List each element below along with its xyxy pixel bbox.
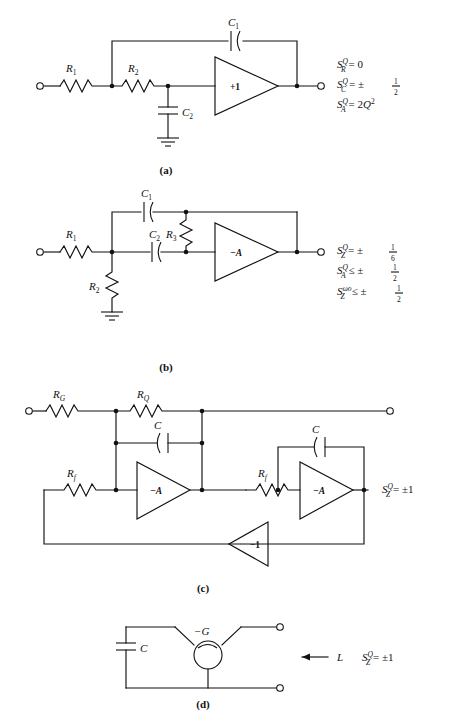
panel-b-caption: (b) xyxy=(159,361,173,374)
panel-d-label-C: C xyxy=(140,642,148,654)
panel-d-sensitivities: SQZ= ±1 xyxy=(362,650,394,667)
panel-c-label-C-left: C xyxy=(154,419,162,431)
panel-c-sensitivity-1: SQZ= ±1 xyxy=(382,482,414,499)
panel-c-caption: (c) xyxy=(197,582,210,595)
panel-a-output-terminal xyxy=(318,83,325,90)
svg-text:1: 1 xyxy=(393,263,397,272)
panel-a-sensitivities: SQR= 0 SQC= ± 1 2 SQA= 2Q2 xyxy=(337,57,400,114)
panel-c-amplifier-1 xyxy=(137,462,190,519)
panel-a-amplifier-label: +1 xyxy=(230,82,240,92)
panel-b-input-terminal xyxy=(37,249,44,256)
panel-b-fraction-half-2: 1 2 xyxy=(395,284,403,304)
panel-a-label-C2: C2 xyxy=(182,106,193,121)
panel-c: RG RQ C C Rf Rf −A −A −1 SQZ= ±1 (c) xyxy=(26,388,414,595)
panel-c-amplifier-2 xyxy=(300,462,353,519)
svg-text:2: 2 xyxy=(394,88,398,97)
panel-d-inductance-arrow xyxy=(302,654,328,661)
panel-b-amplifier-label: −A xyxy=(230,248,242,258)
panel-c-output-terminal xyxy=(387,408,394,415)
panel-d-label-negG: −G xyxy=(194,625,209,637)
panel-a-input-terminal xyxy=(37,83,44,90)
panel-b-label-C2: C2 xyxy=(149,228,160,243)
panel-d: C −G L SQZ= ±1 (d) xyxy=(116,624,394,711)
panel-b-amplifier xyxy=(215,223,278,281)
panel-a-label-R1: R1 xyxy=(65,62,77,77)
panel-c-label-C-right: C xyxy=(312,423,320,435)
svg-text:2: 2 xyxy=(393,274,397,283)
panel-b-sensitivity-1: SQZ= ± xyxy=(337,243,363,260)
panel-a-sensitivity-1: SQR= 0 xyxy=(337,57,363,74)
panel-a-sensitivity-2: SQC= ± xyxy=(337,77,364,94)
panel-b-label-R2: R2 xyxy=(88,280,100,295)
svg-text:1: 1 xyxy=(391,243,395,252)
panel-c-input-terminal xyxy=(26,408,33,415)
panel-b-sensitivity-3: SωoZ≤ ± xyxy=(337,284,367,301)
panel-c-label-Rf-1: Rf xyxy=(66,467,77,482)
panel-a: R1 R2 C1 C2 +1 SQR= 0 SQC= ± 1 2 SQA= 2Q… xyxy=(37,16,400,177)
panel-b-label-R3: R3 xyxy=(165,228,177,243)
panel-c-label-RQ: RQ xyxy=(136,388,150,403)
svg-text:1: 1 xyxy=(394,77,398,86)
panel-c-sensitivities: SQZ= ±1 xyxy=(382,482,414,499)
svg-text:1: 1 xyxy=(397,284,401,293)
panel-b-fraction-half-1: 1 2 xyxy=(391,263,399,283)
circuit-figure-sheet: R1 R2 C1 C2 +1 SQR= 0 SQC= ± 1 2 SQA= 2Q… xyxy=(0,0,449,721)
panel-d-terminal-top xyxy=(277,624,284,631)
panel-a-label-R2: R2 xyxy=(127,62,139,77)
panel-a-caption: (a) xyxy=(160,164,173,177)
panel-c-amplifier-2-label: −A xyxy=(313,486,325,496)
panel-d-sensitivity-1: SQZ= ±1 xyxy=(362,650,394,667)
panel-d-negative-conductance xyxy=(194,641,222,669)
svg-text:6: 6 xyxy=(391,254,395,263)
panel-b-label-R1: R1 xyxy=(65,228,77,243)
panel-a-fraction-half: 1 2 xyxy=(392,77,400,97)
panel-b: R1 R2 R3 C1 C2 −A SQZ= ± 1 6 SQA≤ ± 1 2 … xyxy=(37,187,403,374)
panel-a-label-C1: C1 xyxy=(228,16,239,31)
panel-b-sensitivity-2: SQA≤ ± xyxy=(337,263,363,280)
panel-c-amplifier-1-label: −A xyxy=(150,486,162,496)
panel-c-label-Rf-2: Rf xyxy=(257,467,268,482)
panel-c-label-RG: RG xyxy=(52,388,66,403)
panel-d-caption: (d) xyxy=(196,698,210,711)
panel-c-inverter-label: −1 xyxy=(250,540,260,550)
panel-b-fraction-sixth: 1 6 xyxy=(389,243,397,263)
panel-b-label-C1: C1 xyxy=(141,187,152,202)
panel-a-sensitivity-3: SQA= 2Q2 xyxy=(337,97,375,114)
panel-b-sensitivities: SQZ= ± 1 6 SQA≤ ± 1 2 SωoZ≤ ± 1 2 xyxy=(337,243,403,304)
panel-d-terminal-bottom xyxy=(277,685,284,692)
panel-d-label-L: L xyxy=(336,651,343,663)
svg-text:2: 2 xyxy=(397,295,401,304)
panel-a-amplifier xyxy=(215,57,278,115)
panel-b-output-terminal xyxy=(318,249,325,256)
